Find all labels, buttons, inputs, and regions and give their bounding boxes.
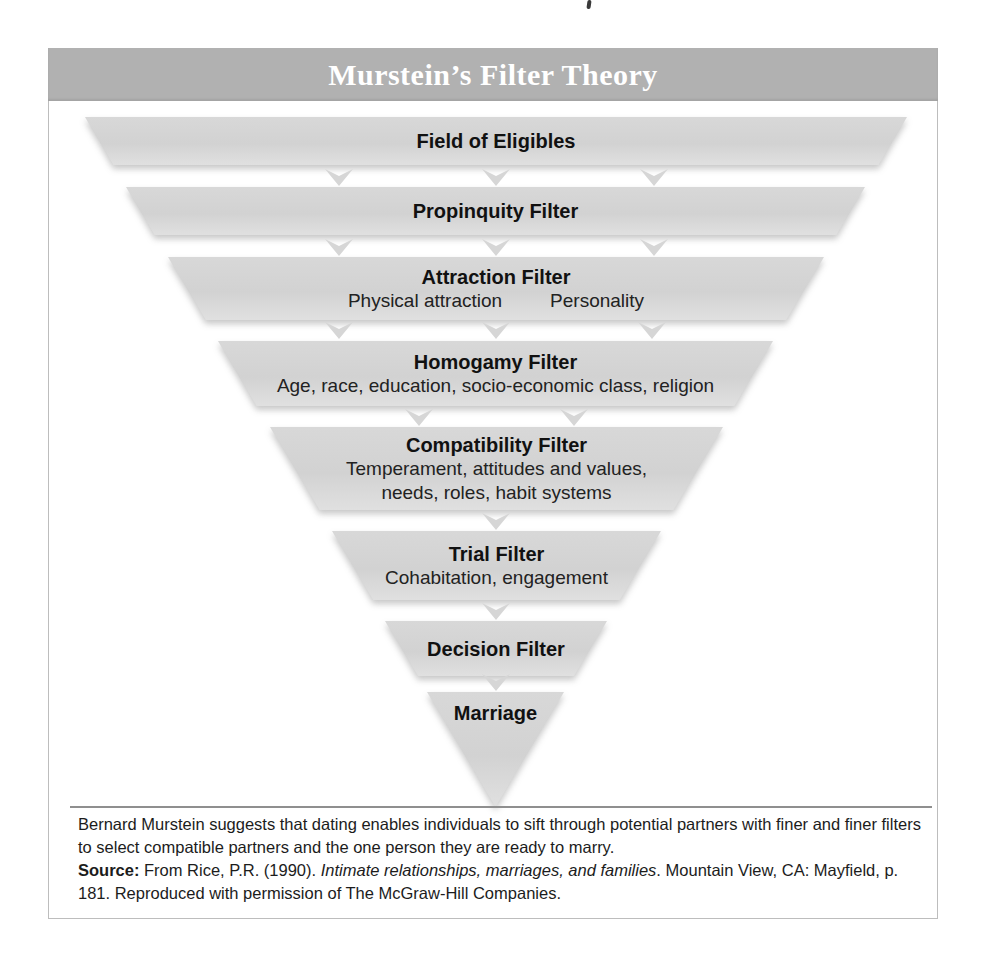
figure-title: Murstein’s Filter Theory: [328, 58, 658, 91]
down-arrow-icon: [482, 603, 510, 620]
caption-source-label: Source:: [78, 861, 139, 879]
down-arrow-icon: [560, 409, 588, 426]
caption-divider: [70, 806, 932, 808]
funnel-level-sublines: Temperament, attitudes and values,needs,…: [346, 457, 647, 505]
funnel-level-compatibility-filter: Compatibility Filter Temperament, attitu…: [270, 427, 723, 510]
funnel-level-content: Compatibility Filter Temperament, attitu…: [270, 427, 723, 510]
funnel-level-subline: Physical attraction: [348, 289, 502, 313]
funnel-level-decision-filter: Decision Filter: [385, 621, 607, 676]
caption-body: Bernard Murstein suggests that dating en…: [78, 813, 926, 859]
funnel-level-title: Homogamy Filter: [414, 350, 577, 374]
funnel-level-content: Trial Filter Cohabitation, engagement: [332, 531, 661, 600]
funnel-level-title: Marriage: [454, 701, 537, 725]
figure-canvas: Murstein’s Filter Theory Field of Eligib…: [0, 0, 982, 959]
funnel-level-title: Trial Filter: [449, 542, 545, 566]
funnel-level-content: Propinquity Filter: [126, 187, 865, 235]
funnel-level-title: Field of Eligibles: [417, 129, 576, 153]
down-arrow-icon: [482, 674, 510, 691]
funnel-level-sublines: Age, race, education, socio-economic cla…: [277, 374, 714, 398]
caption-source-text-1: From Rice, P.R. (1990).: [139, 861, 320, 879]
funnel-level-sublines: Cohabitation, engagement: [385, 566, 608, 590]
funnel-level-subline: Personality: [550, 289, 644, 313]
down-arrow-icon: [640, 169, 668, 186]
down-arrow-icon: [325, 239, 353, 256]
funnel-level-subline: needs, roles, habit systems: [346, 481, 647, 505]
down-arrow-icon: [325, 322, 353, 339]
caption: Bernard Murstein suggests that dating en…: [78, 813, 926, 905]
funnel-level-subline: Temperament, attitudes and values,: [346, 457, 647, 481]
funnel-level-propinquity-filter: Propinquity Filter: [126, 187, 865, 235]
funnel-level-attraction-filter: Attraction Filter Physical attractionPer…: [168, 257, 824, 320]
figure-title-bar: Murstein’s Filter Theory: [48, 48, 938, 101]
funnel-level-content: Decision Filter: [385, 621, 607, 676]
funnel-level-homogamy-filter: Homogamy Filter Age, race, education, so…: [218, 341, 773, 406]
down-arrow-icon: [482, 322, 510, 339]
funnel-level-subline: Cohabitation, engagement: [385, 566, 608, 590]
funnel-level-content: Marriage: [427, 692, 564, 807]
funnel-level-subline: Age, race, education, socio-economic cla…: [277, 374, 714, 398]
funnel-level-marriage: Marriage: [427, 692, 564, 807]
down-arrow-icon: [640, 239, 668, 256]
down-arrow-icon: [638, 322, 666, 339]
funnel-level-trial-filter: Trial Filter Cohabitation, engagement: [332, 531, 661, 600]
scan-artifact: [586, 0, 591, 9]
caption-source: Source: From Rice, P.R. (1990). Intimate…: [78, 859, 926, 905]
funnel-level-title: Compatibility Filter: [406, 433, 587, 457]
down-arrow-icon: [325, 169, 353, 186]
funnel-level-title: Decision Filter: [427, 637, 565, 661]
funnel-level-title: Attraction Filter: [422, 265, 571, 289]
down-arrow-icon: [482, 239, 510, 256]
funnel-level-content: Attraction Filter Physical attractionPer…: [168, 257, 824, 320]
funnel-level-content: Field of Eligibles: [85, 117, 907, 165]
funnel-level-sublines: Physical attractionPersonality: [348, 289, 644, 313]
funnel-level-field-of-eligibles: Field of Eligibles: [85, 117, 907, 165]
funnel-level-title: Propinquity Filter: [413, 199, 579, 223]
down-arrow-icon: [482, 513, 510, 530]
down-arrow-icon: [405, 409, 433, 426]
caption-source-book-title: Intimate relationships, marriages, and f…: [321, 861, 657, 879]
funnel-level-content: Homogamy Filter Age, race, education, so…: [218, 341, 773, 406]
down-arrow-icon: [482, 169, 510, 186]
